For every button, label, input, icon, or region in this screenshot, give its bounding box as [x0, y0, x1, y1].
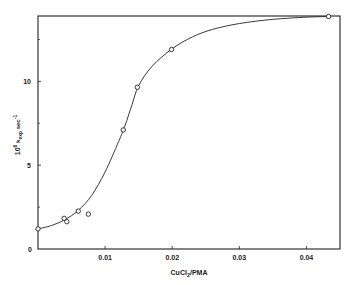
data-point-marker: [86, 212, 90, 216]
data-point-marker: [326, 14, 330, 18]
x-tick-label: 0.04: [300, 254, 314, 261]
y-tick-label: 0: [28, 246, 32, 253]
x-tick-label: 0.03: [233, 254, 247, 261]
data-point-marker: [121, 128, 125, 132]
y-axis-title: 106 kexp sec-1: [12, 115, 23, 156]
data-point-marker: [36, 227, 40, 231]
data-point-marker: [76, 209, 80, 213]
data-point-marker: [65, 219, 69, 223]
fitted-curve: [38, 17, 329, 229]
x-tick-label: 0.02: [165, 254, 179, 261]
y-tick-label: 10: [23, 78, 31, 85]
y-tick-label: 5: [27, 162, 31, 169]
chart: 0.010.020.030.04 0510 CuCl2/PMA 106 kexp…: [0, 0, 352, 285]
x-axis-ticks: 0.010.020.030.04: [98, 246, 313, 261]
data-points: [36, 14, 331, 231]
x-axis-title: CuCl2/PMA: [171, 269, 208, 278]
x-tick-label: 0.01: [98, 254, 112, 261]
plot-frame: [38, 16, 340, 249]
data-point-marker: [169, 47, 173, 51]
data-point-marker: [135, 85, 139, 89]
